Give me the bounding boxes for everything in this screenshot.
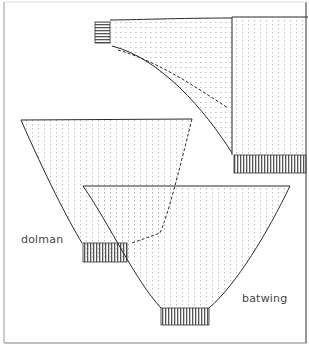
diagram-frame: dolman batwing bbox=[0, 0, 309, 345]
dolman-label: dolman bbox=[21, 233, 63, 246]
batwing-label: batwing bbox=[242, 292, 287, 305]
